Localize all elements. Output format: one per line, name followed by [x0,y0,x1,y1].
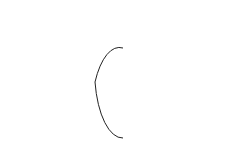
diagram-canvas [0,0,241,150]
cylinder-diagram [0,0,241,150]
shell-left-rim [95,47,123,138]
outer-shell [95,47,123,138]
